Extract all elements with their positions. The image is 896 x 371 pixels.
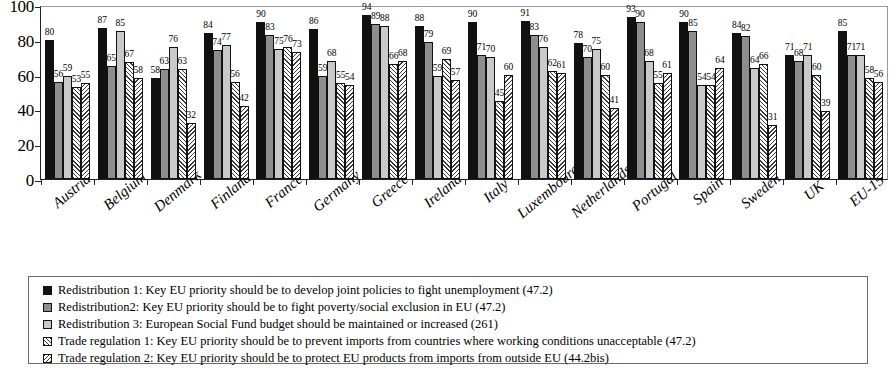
bar-value-label: 63 <box>177 57 187 67</box>
legend-item[interactable]: Trade regulation 1: Key EU priority shou… <box>43 333 867 350</box>
bar[interactable]: 66 <box>759 64 768 179</box>
bar[interactable]: 53 <box>72 87 81 179</box>
bar[interactable]: 61 <box>663 73 672 179</box>
bar[interactable]: 77 <box>222 45 231 179</box>
x-label-slot: Spain <box>676 182 729 266</box>
bar[interactable]: 31 <box>768 125 777 179</box>
bar[interactable]: 68 <box>398 61 407 179</box>
bar-value-label: 83 <box>530 23 540 33</box>
bar-value-label: 61 <box>662 61 672 71</box>
bar[interactable]: 70 <box>486 57 495 179</box>
bar-value-label: 71 <box>477 43 487 53</box>
bar[interactable]: 88 <box>380 26 389 179</box>
bar[interactable]: 80 <box>45 40 54 179</box>
bar[interactable]: 85 <box>838 31 847 179</box>
bar[interactable]: 63 <box>178 69 187 179</box>
bar[interactable]: 69 <box>442 59 451 179</box>
bar[interactable]: 54 <box>706 85 715 179</box>
bar[interactable]: 75 <box>274 49 283 180</box>
bar[interactable]: 85 <box>688 31 697 179</box>
bar[interactable]: 61 <box>557 73 566 179</box>
bar-value-label: 84 <box>732 21 742 31</box>
bar[interactable]: 75 <box>592 49 601 180</box>
bar[interactable]: 45 <box>495 101 504 179</box>
legend-item[interactable]: Redistribution 3: European Social Fund b… <box>43 316 867 333</box>
bar[interactable]: 86 <box>309 29 318 179</box>
bar[interactable]: 55 <box>654 83 663 179</box>
bar[interactable]: 90 <box>679 22 688 179</box>
x-axis-category-labels: AustriaBelgiumDenmarkFinlandFranceGerman… <box>40 182 888 266</box>
bar[interactable]: 90 <box>468 22 477 179</box>
bar[interactable]: 71 <box>785 55 794 179</box>
bar[interactable]: 90 <box>256 22 265 179</box>
bar[interactable]: 68 <box>645 61 654 179</box>
bar[interactable]: 70 <box>583 57 592 179</box>
x-tick-label: UK <box>800 178 827 204</box>
bar[interactable]: 71 <box>803 55 812 179</box>
bar[interactable]: 58 <box>865 78 874 179</box>
bar[interactable]: 90 <box>636 22 645 179</box>
bar[interactable]: 63 <box>160 69 169 179</box>
bar[interactable]: 93 <box>627 17 636 179</box>
bar[interactable]: 58 <box>134 78 143 179</box>
bar[interactable]: 64 <box>750 68 759 179</box>
bar[interactable]: 59 <box>63 76 72 179</box>
bar[interactable]: 85 <box>116 31 125 179</box>
bar[interactable]: 56 <box>231 82 240 179</box>
bar[interactable]: 60 <box>601 75 610 179</box>
bar[interactable]: 59 <box>318 76 327 179</box>
bar[interactable]: 56 <box>54 82 63 179</box>
bar[interactable]: 83 <box>265 35 274 179</box>
bar[interactable]: 68 <box>794 61 803 179</box>
bar[interactable]: 41 <box>610 108 619 179</box>
bar[interactable]: 73 <box>292 52 301 179</box>
bar[interactable]: 76 <box>539 47 548 179</box>
bar[interactable]: 83 <box>530 35 539 179</box>
bar[interactable]: 71 <box>856 55 865 179</box>
bar[interactable]: 59 <box>433 76 442 179</box>
bar[interactable]: 66 <box>389 64 398 179</box>
bar[interactable]: 55 <box>81 83 90 179</box>
bar[interactable]: 87 <box>98 28 107 179</box>
bar[interactable]: 54 <box>345 85 354 179</box>
bar[interactable]: 76 <box>283 47 292 179</box>
bar-group: 8765856758 <box>94 7 147 179</box>
x-label-slot: Italy <box>464 182 517 266</box>
bar[interactable]: 91 <box>521 21 530 179</box>
bar[interactable]: 54 <box>697 85 706 179</box>
bar[interactable]: 60 <box>812 75 821 179</box>
bar[interactable]: 62 <box>548 71 557 179</box>
bar[interactable]: 76 <box>169 47 178 179</box>
bar[interactable]: 57 <box>451 80 460 179</box>
bar-value-label: 74 <box>212 38 222 48</box>
bar-value-label: 53 <box>72 75 82 85</box>
bar-value-label: 41 <box>609 96 619 106</box>
bar[interactable]: 94 <box>362 15 371 179</box>
bar[interactable]: 79 <box>424 42 433 179</box>
bar[interactable]: 74 <box>213 50 222 179</box>
legend-item[interactable]: Redistribution 1: Key EU priority should… <box>43 282 867 299</box>
bar[interactable]: 64 <box>715 68 724 179</box>
bar[interactable]: 78 <box>574 43 583 179</box>
legend-item[interactable]: Redistribution2: Key EU priority should … <box>43 299 867 316</box>
y-axis-tick <box>35 42 41 43</box>
bar[interactable]: 32 <box>187 123 196 179</box>
bar[interactable]: 89 <box>371 24 380 179</box>
bar[interactable]: 56 <box>874 82 883 179</box>
bar[interactable]: 84 <box>732 33 741 179</box>
bar[interactable]: 82 <box>741 36 750 179</box>
bar[interactable]: 68 <box>327 61 336 179</box>
bar[interactable]: 42 <box>240 106 249 179</box>
bar[interactable]: 71 <box>477 55 486 179</box>
bar[interactable]: 55 <box>336 83 345 179</box>
legend-item[interactable]: Trade regulation 2: Key EU priority shou… <box>43 350 867 367</box>
bar-value-label: 78 <box>573 31 583 41</box>
bar[interactable]: 88 <box>415 26 424 179</box>
bar[interactable]: 71 <box>847 55 856 179</box>
bar[interactable]: 65 <box>107 66 116 179</box>
bar[interactable]: 39 <box>821 111 830 179</box>
bar[interactable]: 58 <box>151 78 160 179</box>
bar[interactable]: 67 <box>125 62 134 179</box>
bar[interactable]: 60 <box>504 75 513 179</box>
bar[interactable]: 84 <box>204 33 213 179</box>
